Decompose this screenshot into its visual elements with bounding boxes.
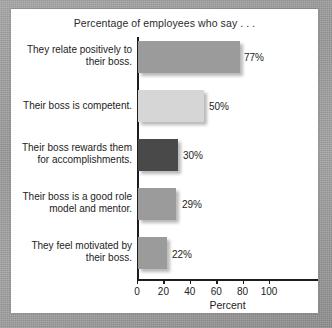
- bar-value-label: 50%: [209, 101, 229, 112]
- bar: [138, 139, 178, 171]
- bar-value-label: 30%: [183, 150, 203, 161]
- bar-category-label-line1: Their boss is a good role: [22, 191, 132, 202]
- bar-category-label-line2: their boss.: [86, 252, 132, 263]
- x-axis-title: Percent: [137, 299, 318, 311]
- bar-category-label: Their boss is competent.: [12, 100, 132, 112]
- bar-category-label-line1: Their boss is competent.: [23, 100, 132, 111]
- bar-category-label: Their boss is a good role model and ment…: [12, 191, 132, 216]
- bar-category-label: They feel motivated by their boss.: [12, 240, 132, 265]
- bar-category-label-line2: their boss.: [86, 56, 132, 67]
- x-axis-tick: [269, 279, 270, 284]
- x-axis-tick-label: 100: [261, 286, 278, 297]
- chart-image: Percentage of employees who say . . . Th…: [0, 0, 332, 328]
- plot-area: They relate positively to their boss. 77…: [11, 9, 318, 313]
- bar-category-label-line1: They feel motivated by: [31, 240, 132, 251]
- bar: [138, 90, 204, 122]
- bar-category-label-line1: They relate positively to: [27, 44, 132, 55]
- bar-value-label: 29%: [182, 199, 202, 210]
- bar-category-label-line2: for accomplishments.: [38, 154, 132, 165]
- bar: [138, 41, 240, 73]
- bar-value-label: 77%: [244, 52, 264, 63]
- x-axis-tick-label: 0: [134, 286, 140, 297]
- x-axis-tick-label: 40: [184, 286, 195, 297]
- x-axis-tick: [137, 279, 138, 284]
- bar-category-label-line2: model and mentor.: [49, 203, 132, 214]
- bar-category-label-line1: Their boss rewards them: [22, 142, 132, 153]
- x-axis-tick: [243, 279, 244, 284]
- x-axis-tick-label: 60: [211, 286, 222, 297]
- x-axis-tick: [190, 279, 191, 284]
- chart-panel: Percentage of employees who say . . . Th…: [11, 9, 318, 313]
- x-axis-tick-label: 20: [158, 286, 169, 297]
- x-axis-tick-label: 80: [237, 286, 248, 297]
- x-axis-tick: [216, 279, 217, 284]
- x-axis-tick: [163, 279, 164, 284]
- bar: [138, 237, 167, 269]
- bar-category-label: They relate positively to their boss.: [12, 44, 132, 69]
- bar-category-label: Their boss rewards them for accomplishme…: [12, 142, 132, 167]
- bar-value-label: 22%: [172, 249, 192, 260]
- bar: [138, 188, 176, 220]
